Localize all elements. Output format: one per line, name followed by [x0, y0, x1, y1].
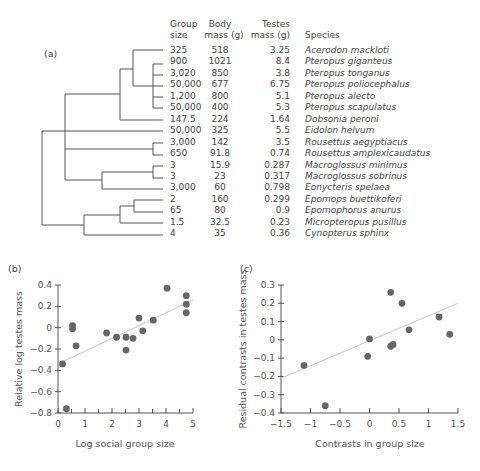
data-point — [387, 289, 394, 296]
testes-mass-cell: 5.3 — [276, 102, 290, 112]
data-point — [136, 315, 143, 322]
y-tick-label: −0.4 — [253, 408, 275, 418]
data-point — [59, 361, 66, 368]
table-row: 3,0001423.5Rousettus aegyptiacus — [170, 137, 408, 147]
testes-mass-cell: 5.1 — [276, 91, 290, 101]
table-row: 1,2008005.1Pteropus alecto — [170, 91, 376, 101]
table-row: 3230.317Macroglossus sobrinus — [170, 171, 407, 181]
x-tick-label: −1 — [304, 419, 317, 429]
data-point — [150, 317, 157, 324]
chart-b-scatter: 0.40.20−0.2−0.4−0.6−0.8012345 — [30, 280, 196, 429]
data-point — [113, 334, 120, 341]
species-cell: Epomops buettikoferi — [305, 194, 402, 204]
data-point — [164, 285, 171, 292]
data-point — [399, 300, 406, 307]
testes-mass-cell: 1.64 — [270, 114, 290, 124]
body-mass-cell: 91.8 — [210, 148, 230, 158]
data-point — [436, 314, 443, 321]
body-mass-cell: 32.5 — [210, 217, 230, 227]
chart-c-xlabel: Contrasts in group size — [315, 438, 424, 449]
body-mass-cell: 677 — [211, 79, 228, 89]
data-point — [123, 334, 130, 341]
group-size-cell: 650 — [170, 148, 187, 158]
body-mass-cell: 35 — [214, 228, 225, 238]
species-cell: Eidolon helvum — [305, 125, 375, 135]
body-mass-cell: 400 — [211, 102, 228, 112]
group-size-cell: 325 — [170, 45, 187, 55]
y-tick-label: −0.3 — [253, 390, 275, 400]
species-cell: Eonycteris spelaea — [305, 182, 390, 192]
group-size-cell: 3 — [170, 171, 176, 181]
figure: (a) Group size Body mass (g) Testes mass… — [0, 0, 480, 471]
body-mass-cell: 15.9 — [210, 160, 230, 170]
body-mass-cell: 23 — [214, 171, 225, 181]
group-size-cell: 1.5 — [170, 217, 184, 227]
y-tick-label: 0.1 — [261, 317, 275, 327]
data-point — [130, 335, 137, 342]
y-tick-label: 0.3 — [261, 280, 275, 290]
data-point — [73, 342, 80, 349]
x-tick-label: 1.5 — [451, 419, 465, 429]
chart-b-ylabel: Relative log testes mass — [13, 291, 24, 407]
x-tick-label: 5 — [190, 419, 196, 429]
species-cell: Cynopterus sphinx — [305, 228, 390, 238]
body-mass-cell: 518 — [211, 45, 228, 55]
body-mass-cell: 142 — [211, 137, 228, 147]
header-body-mass-1: Body — [209, 19, 232, 29]
table-header: Group size Body mass (g) Testes mass (g)… — [170, 19, 340, 40]
y-tick-label: 0.4 — [38, 280, 53, 290]
data-point — [406, 326, 413, 333]
testes-mass-cell: 0.36 — [270, 228, 290, 238]
species-cell: Pteropus tonganus — [305, 68, 390, 78]
panel-label-a: (a) — [44, 48, 57, 59]
phylogenetic-tree — [42, 50, 163, 235]
data-point — [139, 327, 146, 334]
species-cell: Pteropus scapulatus — [305, 102, 396, 112]
data-point — [183, 309, 190, 316]
y-tick-label: −0.2 — [253, 371, 275, 381]
group-size-cell: 50,000 — [170, 125, 202, 135]
testes-mass-cell: 0.317 — [264, 171, 290, 181]
panel-label-b: (b) — [8, 263, 21, 274]
y-tick-label: 0 — [269, 335, 275, 345]
y-tick-label: 0 — [46, 323, 52, 333]
species-cell: Micropteropus pusillus — [305, 217, 407, 227]
x-tick-label: 1 — [426, 419, 432, 429]
x-tick-label: 0 — [367, 419, 373, 429]
testes-mass-cell: 6.75 — [270, 79, 290, 89]
species-cell: Epomophorus anurus — [305, 205, 401, 215]
body-mass-cell: 60 — [214, 182, 226, 192]
species-cell: Rousettus amplexicaudatus — [305, 148, 430, 158]
x-tick-label: 4 — [163, 419, 169, 429]
data-point — [390, 341, 397, 348]
data-point — [322, 402, 329, 409]
data-point — [183, 301, 190, 308]
header-group-size-2: size — [170, 30, 188, 40]
data-table: 3255183.25Acerodon mackloti90010218.4Pte… — [170, 45, 430, 238]
table-row: 90010218.4Pteropus giganteus — [170, 56, 393, 66]
group-size-cell: 65 — [170, 205, 181, 215]
data-point — [63, 405, 70, 412]
body-mass-cell: 325 — [211, 125, 228, 135]
table-row: 3255183.25Acerodon mackloti — [170, 45, 390, 55]
table-row: 1.532.50.23Micropteropus pusillus — [170, 217, 407, 227]
testes-mass-cell: 3.5 — [276, 137, 290, 147]
body-mass-cell: 1021 — [209, 56, 232, 66]
x-tick-label: 3 — [136, 419, 142, 429]
species-cell: Acerodon mackloti — [304, 45, 390, 55]
table-row: 315.90.287Macroglossus minimus — [170, 160, 408, 170]
y-tick-label: −0.1 — [253, 353, 275, 363]
header-body-mass-2: mass (g) — [204, 30, 243, 40]
testes-mass-cell: 0.287 — [264, 160, 290, 170]
group-size-cell: 147.5 — [170, 114, 196, 124]
body-mass-cell: 224 — [211, 114, 228, 124]
table-row: 50,0004005.3Pteropus scapulatus — [170, 102, 396, 112]
x-tick-label: 2 — [109, 419, 115, 429]
table-row: 4350.36Cynopterus sphinx — [170, 228, 390, 238]
chart-c-ylabel: Residual contrasts in testes mass — [237, 269, 248, 428]
species-cell: Pteropus poliocephalus — [305, 79, 410, 89]
body-mass-cell: 160 — [211, 194, 228, 204]
table-row: 65091.80.74Rousettus amplexicaudatus — [170, 148, 430, 158]
chart-b-xlabel: Log social group size — [75, 438, 174, 449]
data-point — [69, 325, 76, 332]
